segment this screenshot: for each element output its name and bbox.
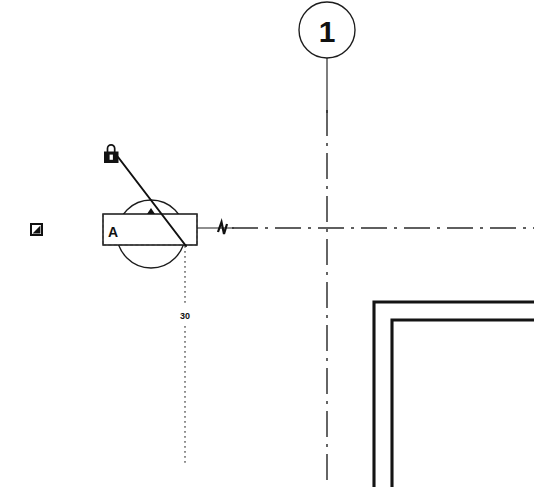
dimension-group[interactable]: 30 xyxy=(180,246,190,466)
padlock-keyhole-icon xyxy=(110,155,113,160)
drawing-canvas[interactable]: 1 30 A xyxy=(0,0,534,487)
cad-drawing-surface[interactable]: 1 30 A xyxy=(0,0,534,487)
wall-inner-line[interactable] xyxy=(392,320,534,487)
break-zigzag-icon xyxy=(218,222,227,234)
dimension-value-label: 30 xyxy=(180,311,190,321)
padlock-shackle-icon xyxy=(108,145,115,152)
section-marker[interactable]: A xyxy=(103,200,234,268)
section-marker-letter: A xyxy=(108,224,118,240)
grid-bubble-label: 1 xyxy=(319,15,336,48)
wall-corner-group[interactable] xyxy=(374,302,534,487)
section-marker-direction-tick xyxy=(147,208,155,214)
line-break-symbol xyxy=(218,222,227,234)
checkbox-checked-icon[interactable] xyxy=(30,223,43,236)
grid-bubble[interactable]: 1 xyxy=(299,2,355,113)
wall-outer-line[interactable] xyxy=(374,302,534,487)
centerline-group xyxy=(232,110,534,487)
